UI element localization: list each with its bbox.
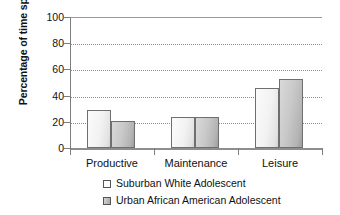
bar-chart-figure: Percentage of time spent 020406080100 Pr…: [0, 0, 340, 215]
x-axis-endcap-0: [70, 148, 71, 155]
x-axis-line: [70, 148, 323, 150]
x-axis-separator-2: [238, 148, 239, 155]
legend-label: Urban African American Adolescent: [116, 195, 281, 206]
gridline-80: [71, 44, 322, 45]
y-tick-label-100: 100: [24, 11, 64, 23]
y-tick-label-0: 0: [24, 142, 64, 154]
y-tick-label-40: 40: [24, 90, 64, 102]
category-label-productive: Productive: [70, 156, 154, 170]
x-axis-endcap-3: [322, 148, 323, 155]
legend-swatch-dark: [103, 197, 111, 205]
bar-maintenance-series-1: [171, 117, 195, 148]
gridline-60: [71, 70, 322, 71]
y-tick-label-60: 60: [24, 63, 64, 75]
y-tick-label-80: 80: [24, 37, 64, 49]
chart-legend: Suburban White AdolescentUrban African A…: [103, 176, 333, 210]
bar-maintenance-series-2: [195, 117, 219, 148]
category-label-leisure: Leisure: [238, 156, 322, 170]
bar-productive-series-2: [111, 121, 135, 149]
legend-item-1[interactable]: Suburban White Adolescent: [103, 176, 333, 191]
bar-productive-series-1: [87, 110, 111, 148]
legend-item-2[interactable]: Urban African American Adolescent: [103, 193, 333, 208]
plot-area: [70, 17, 322, 148]
legend-label: Suburban White Adolescent: [116, 178, 246, 189]
bar-leisure-series-1: [255, 88, 279, 148]
x-axis-separator-1: [154, 148, 155, 155]
legend-swatch-light: [103, 180, 111, 188]
y-tick-label-20: 20: [24, 116, 64, 128]
category-label-maintenance: Maintenance: [154, 156, 238, 170]
bar-leisure-series-2: [279, 79, 303, 148]
